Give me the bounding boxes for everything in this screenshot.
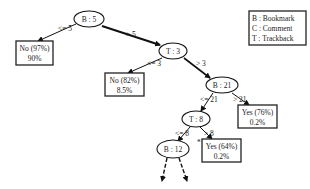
edge-b12-left (162, 158, 167, 181)
edge-label-b5-le: <= 5 (58, 24, 72, 33)
leaf-no-82: No (82%) 8.5% (105, 73, 144, 96)
legend: B : Bookmark C : Comment T : Trackback (249, 11, 306, 45)
node-label: B : 21 (213, 81, 232, 90)
edge-label-b5-gt: > 5 (126, 30, 136, 39)
leaf-no-97: No (97%) 90% (16, 41, 53, 65)
node-b21: B : 21 (206, 77, 238, 93)
leaf-class: Yes (64%) (206, 142, 238, 151)
edge-label-b21-le: <= 21 (200, 95, 218, 104)
edge-label-t8-le: <= 8 (175, 129, 189, 138)
node-b5: B : 5 (74, 11, 104, 27)
legend-item-bookmark: B : Bookmark (252, 14, 295, 23)
edge-label-t8-gt: > 8 (204, 129, 214, 138)
edge-label-t3-le: <= 3 (147, 59, 161, 68)
leaf-yes-76: Yes (76%) 0.2% (238, 105, 277, 128)
node-label: B : 12 (164, 145, 183, 154)
leaf-class: No (97%) (20, 44, 50, 53)
node-label: T : 8 (189, 115, 203, 124)
leaf-class: Yes (76%) (242, 108, 274, 117)
leaf-coverage: 8.5% (117, 86, 133, 95)
decision-tree-diagram: <= 5 > 5 <= 3 > 3 <= 21 > 21 <= 8 > 8 B … (0, 0, 310, 189)
edge-b12-right (179, 158, 187, 181)
legend-item-trackback: T : Trackback (252, 34, 294, 43)
node-b12: B : 12 (157, 140, 189, 158)
leaf-yes-64: Yes (64%) 0.2% (202, 139, 241, 162)
leaf-class: No (82%) (110, 76, 140, 85)
leaf-coverage: 0.2% (214, 152, 230, 161)
node-label: B : 5 (82, 15, 97, 24)
node-t8: T : 8 (182, 111, 210, 127)
edge-label-t3-gt: > 3 (196, 59, 206, 68)
leaf-coverage: 90% (28, 54, 42, 63)
asterisk-marker: * (197, 138, 201, 147)
node-t3: T : 3 (159, 43, 187, 59)
legend-item-comment: C : Comment (252, 24, 293, 33)
node-label: T : 3 (166, 47, 180, 56)
leaf-coverage: 0.2% (250, 118, 266, 127)
edge-label-b21-gt: > 21 (233, 95, 247, 104)
